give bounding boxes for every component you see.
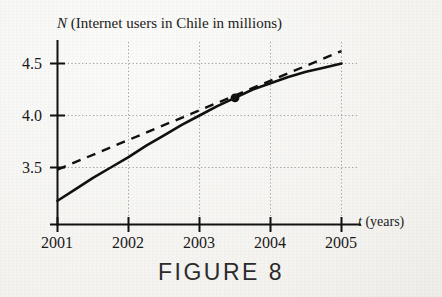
x-axis-title: t (years): [358, 215, 404, 229]
x-axis-title-rest: (years): [362, 214, 404, 229]
x-tick-label-2004: 2004: [244, 235, 296, 251]
chart-title: N (Internet users in Chile in millions): [57, 16, 282, 31]
x-tick-label-2005: 2005: [315, 235, 367, 251]
figure-8-container: N (Internet users in Chile in millions) …: [0, 0, 442, 297]
figure-caption: FIGURE 8: [0, 259, 442, 286]
x-tick-label-2001: 2001: [31, 235, 83, 251]
y-tick-label-4-5: 4.5: [8, 56, 42, 72]
tangent-point-marker: [231, 93, 240, 102]
chart-plot: [0, 0, 442, 297]
x-tick-label-2002: 2002: [102, 235, 154, 251]
gridlines-vertical: [129, 42, 342, 223]
chart-title-variable: N: [57, 15, 67, 31]
y-tick-label-4-0: 4.0: [8, 108, 42, 124]
x-tick-label-2003: 2003: [173, 235, 225, 251]
chart-title-rest: (Internet users in Chile in millions): [67, 15, 282, 31]
y-tick-label-3-5: 3.5: [8, 160, 42, 176]
tangent-line-dashed: [58, 51, 342, 170]
